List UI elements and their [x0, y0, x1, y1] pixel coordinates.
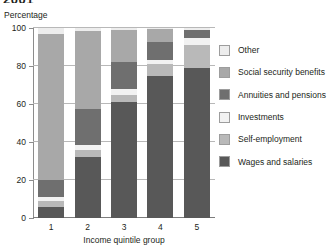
y-tick-mark-40: [29, 142, 33, 143]
bar-segment-investments[interactable]: [75, 145, 101, 150]
y-tick-label-40: 40: [2, 137, 26, 147]
legend-item-annuities-and-pensions[interactable]: Annuities and pensions: [219, 84, 331, 106]
bar-segment-social-security-benefits[interactable]: [111, 30, 137, 62]
bar-segment-wages-and-salaries[interactable]: [75, 157, 101, 218]
y-tick-label-100: 100: [2, 23, 26, 33]
bar-segment-social-security-benefits[interactable]: [147, 29, 173, 42]
x-tick-label-4: 4: [147, 222, 173, 232]
legend-swatch-other: [219, 45, 230, 56]
bar-segment-investments[interactable]: [147, 60, 173, 64]
bar-segment-annuities-and-pensions[interactable]: [111, 62, 137, 89]
bar-segment-other[interactable]: [111, 28, 137, 30]
bar-segment-wages-and-salaries[interactable]: [38, 207, 64, 218]
bar-quintile-4[interactable]: [147, 28, 173, 218]
x-axis-title: Income quintile group: [33, 235, 215, 245]
legend-item-investments[interactable]: Investments: [219, 106, 331, 128]
legend-item-wages-and-salaries[interactable]: Wages and salaries: [219, 150, 331, 172]
y-axis-tick-labels: 020406080100: [0, 0, 26, 250]
bar-segment-annuities-and-pensions[interactable]: [38, 180, 64, 197]
bar-segment-self-employment[interactable]: [147, 64, 173, 75]
y-tick-mark-80: [29, 66, 33, 67]
legend-item-other[interactable]: Other: [219, 39, 331, 61]
bar-segment-other[interactable]: [147, 28, 173, 29]
bar-segment-investments[interactable]: [38, 197, 64, 201]
legend-item-social-security-benefits[interactable]: Social security benefits: [219, 61, 331, 83]
bar-quintile-2[interactable]: [75, 28, 101, 218]
plot-area: [33, 28, 215, 218]
bar-segment-social-security-benefits[interactable]: [38, 34, 64, 180]
x-axis-tick-labels: 12345: [33, 222, 215, 236]
bar-quintile-5[interactable]: [184, 28, 210, 218]
y-tick-label-0: 0: [2, 213, 26, 223]
bar-segment-self-employment[interactable]: [184, 45, 210, 68]
y-tick-label-60: 60: [2, 99, 26, 109]
legend-label: Wages and salaries: [238, 157, 312, 167]
legend-swatch-social-security-benefits: [219, 67, 230, 78]
legend-swatch-wages-and-salaries: [219, 156, 230, 167]
legend-swatch-self-employment: [219, 134, 230, 145]
bar-segment-other[interactable]: [184, 28, 210, 30]
bar-segment-wages-and-salaries[interactable]: [147, 76, 173, 219]
bar-segment-self-employment[interactable]: [111, 95, 137, 103]
y-tick-mark-100: [29, 28, 33, 29]
y-tick-mark-60: [29, 104, 33, 105]
bar-segment-investments[interactable]: [111, 89, 137, 95]
bar-segment-self-employment[interactable]: [38, 201, 64, 207]
y-tick-label-20: 20: [2, 175, 26, 185]
legend-label: Investments: [238, 112, 284, 122]
bar-segment-social-security-benefits[interactable]: [75, 31, 101, 109]
chart-legend: OtherSocial security benefitsAnnuities a…: [219, 39, 331, 173]
y-tick-label-80: 80: [2, 61, 26, 71]
legend-label: Social security benefits: [238, 67, 325, 77]
x-tick-label-3: 3: [111, 222, 137, 232]
bar-quintile-3[interactable]: [111, 28, 137, 218]
bar-quintile-1[interactable]: [38, 28, 64, 218]
bar-segment-other[interactable]: [38, 28, 64, 34]
x-tick-label-1: 1: [38, 222, 64, 232]
bar-segment-other[interactable]: [75, 28, 101, 31]
bar-segment-annuities-and-pensions[interactable]: [147, 42, 173, 60]
x-tick-label-2: 2: [75, 222, 101, 232]
bar-segment-investments[interactable]: [184, 38, 210, 45]
y-tick-mark-0: [29, 218, 33, 219]
bar-segment-self-employment[interactable]: [75, 150, 101, 158]
bar-segment-wages-and-salaries[interactable]: [111, 102, 137, 218]
bar-segment-wages-and-salaries[interactable]: [184, 68, 210, 218]
legend-label: Other: [238, 45, 259, 55]
bar-segment-annuities-and-pensions[interactable]: [184, 30, 210, 39]
legend-label: Self-employment: [238, 134, 302, 144]
legend-swatch-annuities-and-pensions: [219, 89, 230, 100]
y-tick-mark-20: [29, 180, 33, 181]
x-tick-label-5: 5: [184, 222, 210, 232]
legend-item-self-employment[interactable]: Self-employment: [219, 128, 331, 150]
bar-segment-annuities-and-pensions[interactable]: [75, 109, 101, 145]
legend-label: Annuities and pensions: [238, 90, 326, 100]
legend-swatch-investments: [219, 112, 230, 123]
